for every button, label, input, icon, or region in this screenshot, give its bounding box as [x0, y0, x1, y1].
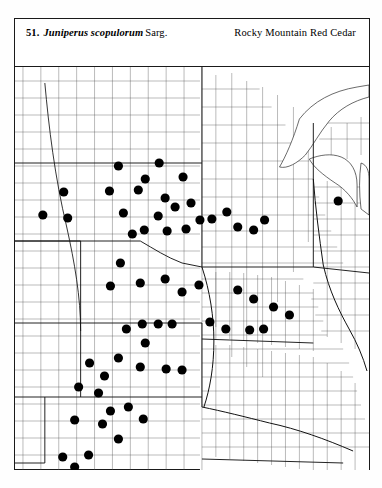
occurrence-dot: [177, 287, 186, 296]
occurrence-dot: [171, 202, 180, 211]
occurrence-dot: [139, 414, 148, 423]
occurrence-dot: [186, 198, 195, 207]
occurrence-dot: [249, 294, 258, 303]
occurrence-dot: [141, 174, 150, 183]
eastern-county-overlay: [200, 67, 369, 470]
occurrence-dot: [222, 207, 231, 216]
occurrence-dot: [119, 208, 128, 217]
occurrence-dot: [94, 388, 103, 397]
occurrence-dot: [85, 358, 94, 367]
occurrence-dot: [70, 415, 79, 424]
occurrence-dot: [74, 382, 83, 391]
plate-frame: 51.Juniperus scopulorumSarg. Rocky Mount…: [14, 18, 370, 470]
map-canvas: [15, 67, 369, 470]
occurrence-dot: [106, 406, 115, 415]
occurrence-dot: [260, 215, 269, 224]
plate-page: 51.Juniperus scopulorumSarg. Rocky Mount…: [0, 0, 382, 488]
occurrence-dot: [161, 193, 170, 202]
occurrence-dot: [154, 211, 163, 220]
occurrence-dot: [38, 210, 47, 219]
distribution-map: [15, 67, 369, 470]
occurrence-dot: [100, 371, 109, 380]
occurrence-dot: [259, 324, 268, 333]
occurrence-dot: [122, 324, 131, 333]
occurrence-dot: [155, 158, 164, 167]
occurrence-dot: [181, 224, 190, 233]
occurrence-dot: [84, 450, 93, 459]
occurrence-dot: [161, 274, 170, 283]
plate-caption: 51.Juniperus scopulorumSarg. Rocky Mount…: [15, 19, 369, 67]
occurrence-dot: [221, 324, 230, 333]
occurrence-dot: [245, 325, 254, 334]
occurrence-dot: [136, 278, 145, 287]
occurrence-dot: [162, 364, 171, 373]
occurrence-dot: [177, 365, 186, 374]
occurrence-dot: [195, 215, 204, 224]
occurrence-dot: [154, 319, 163, 328]
occurrence-dot: [70, 462, 79, 470]
occurrence-dot: [178, 172, 187, 181]
occurrence-dot: [168, 319, 177, 328]
occurrence-dot: [106, 281, 115, 290]
plate-number: 51.: [26, 27, 39, 38]
occurrence-dot: [138, 319, 147, 328]
occurrence-dot: [205, 317, 214, 326]
occurrence-dot: [105, 186, 114, 195]
occurrence-dot: [194, 280, 203, 289]
occurrence-dot: [140, 225, 149, 234]
occurrence-dot: [207, 214, 216, 223]
occurrence-dot: [98, 419, 107, 428]
common-name: Rocky Mountain Red Cedar: [234, 27, 358, 38]
occurrence-dot: [134, 185, 143, 194]
occurrence-dot: [114, 434, 123, 443]
occurrence-dot: [285, 310, 294, 319]
occurrence-dot: [233, 222, 242, 231]
scientific-name: Juniperus scopulorum: [43, 27, 143, 38]
occurrence-dot: [58, 452, 67, 461]
occurrence-dot: [128, 229, 137, 238]
occurrence-dot: [124, 402, 133, 411]
occurrence-dot: [269, 302, 278, 311]
occurrence-dot: [163, 226, 172, 235]
occurrence-dot: [141, 338, 150, 347]
occurrence-dot: [249, 225, 258, 234]
occurrence-dot: [116, 258, 125, 267]
occurrence-dot: [334, 196, 343, 205]
occurrence-dot: [114, 353, 123, 362]
occurrence-dot: [59, 187, 68, 196]
taxon-authority: Sarg.: [145, 27, 167, 38]
occurrence-dot: [63, 213, 72, 222]
occurrence-dot: [233, 285, 242, 294]
taxon-caption: 51.Juniperus scopulorumSarg.: [26, 27, 167, 38]
occurrence-dot: [114, 161, 123, 170]
occurrence-dot: [136, 362, 145, 371]
